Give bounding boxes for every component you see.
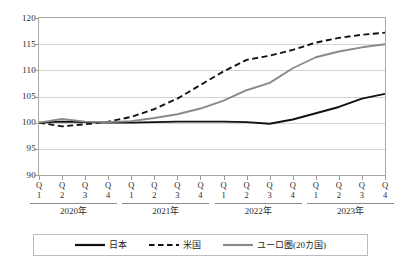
quarter-number: 3: [74, 190, 96, 200]
x-axis-tick-label: Q1: [120, 180, 142, 200]
x-axis-tick-label: Q4: [374, 180, 396, 200]
x-axis-tick-label: Q3: [166, 180, 188, 200]
series-line: [39, 33, 385, 127]
quarter-number: 1: [213, 190, 235, 200]
quarter-letter: Q: [282, 180, 304, 190]
x-axis-tick-label: Q2: [328, 180, 350, 200]
quarter-number: 2: [51, 190, 73, 200]
quarter-number: 4: [97, 190, 119, 200]
quarter-number: 1: [28, 190, 50, 200]
y-axis-tick-label: 95: [6, 144, 36, 153]
x-axis-tick-label: Q2: [51, 180, 73, 200]
quarter-number: 4: [374, 190, 396, 200]
quarter-letter: Q: [189, 180, 211, 190]
year-group: 2021年: [122, 203, 209, 221]
quarter-letter: Q: [305, 180, 327, 190]
series-line: [39, 44, 385, 123]
quarter-letter: Q: [74, 180, 96, 190]
y-axis-tick-label: 100: [6, 118, 36, 127]
quarter-letter: Q: [51, 180, 73, 190]
x-axis-tick-label: Q4: [282, 180, 304, 200]
series-lines: [39, 18, 385, 175]
quarter-letter: Q: [28, 180, 50, 190]
year-group-rule: [215, 203, 302, 204]
quarter-letter: Q: [97, 180, 119, 190]
legend-item: 米国: [149, 240, 201, 250]
x-axis-tick-label: Q2: [143, 180, 165, 200]
year-group-label: 2023年: [307, 206, 394, 217]
year-group: 2023年: [307, 203, 394, 221]
quarter-letter: Q: [351, 180, 373, 190]
y-axis-tick-label: 120: [6, 14, 36, 23]
x-axis-tick-label: Q3: [351, 180, 373, 200]
y-axis-tick-label: 115: [6, 40, 36, 49]
year-group-label: 2021年: [122, 206, 209, 217]
quarter-letter: Q: [236, 180, 258, 190]
x-axis-tick-label: Q1: [305, 180, 327, 200]
quarter-letter: Q: [259, 180, 281, 190]
year-group-rule: [30, 203, 117, 204]
year-group-rule: [122, 203, 209, 204]
quarter-number: 2: [328, 190, 350, 200]
year-group: 2020年: [30, 203, 117, 221]
y-axis-tick-label: 110: [6, 66, 36, 75]
year-group-label: 2020年: [30, 206, 117, 217]
quarter-number: 2: [236, 190, 258, 200]
x-axis-tick-label: Q4: [189, 180, 211, 200]
quarter-number: 3: [166, 190, 188, 200]
quarter-letter: Q: [120, 180, 142, 190]
chart-legend: 日本米国ユーロ圏(20カ国): [33, 234, 368, 256]
quarter-number: 3: [351, 190, 373, 200]
quarter-letter: Q: [143, 180, 165, 190]
legend-label: ユーロ圏(20カ国): [257, 240, 326, 250]
x-axis-tick-label: Q3: [74, 180, 96, 200]
legend-label: 日本: [109, 240, 127, 250]
series-line: [39, 94, 385, 124]
x-axis-tick-label: Q2: [236, 180, 258, 200]
solid-line-swatch: [75, 241, 105, 249]
quarter-letter: Q: [374, 180, 396, 190]
quarter-number: 2: [143, 190, 165, 200]
quarter-letter: Q: [213, 180, 235, 190]
quarter-number: 3: [259, 190, 281, 200]
solid-gray-line-swatch: [223, 241, 253, 249]
year-group-label: 2022年: [215, 206, 302, 217]
quarter-letter: Q: [328, 180, 350, 190]
y-axis-tick-label: 105: [6, 92, 36, 101]
quarter-number: 4: [189, 190, 211, 200]
legend-item: ユーロ圏(20カ国): [223, 240, 326, 250]
dashed-line-swatch: [149, 241, 179, 249]
x-axis-tick-label: Q3: [259, 180, 281, 200]
legend-item: 日本: [75, 240, 127, 250]
line-chart: 9095100105110115120 Q1Q2Q3Q4Q1Q2Q3Q4Q1Q2…: [0, 0, 401, 265]
quarter-number: 4: [282, 190, 304, 200]
year-group-rule: [307, 203, 394, 204]
quarter-letter: Q: [166, 180, 188, 190]
x-axis-tick-label: Q1: [213, 180, 235, 200]
quarter-number: 1: [120, 190, 142, 200]
plot-area: [38, 17, 386, 176]
year-group: 2022年: [215, 203, 302, 221]
y-axis-tick-label: 90: [6, 171, 36, 180]
quarter-number: 1: [305, 190, 327, 200]
x-axis-tick-label: Q4: [97, 180, 119, 200]
legend-label: 米国: [183, 240, 201, 250]
x-axis-tick-label: Q1: [28, 180, 50, 200]
